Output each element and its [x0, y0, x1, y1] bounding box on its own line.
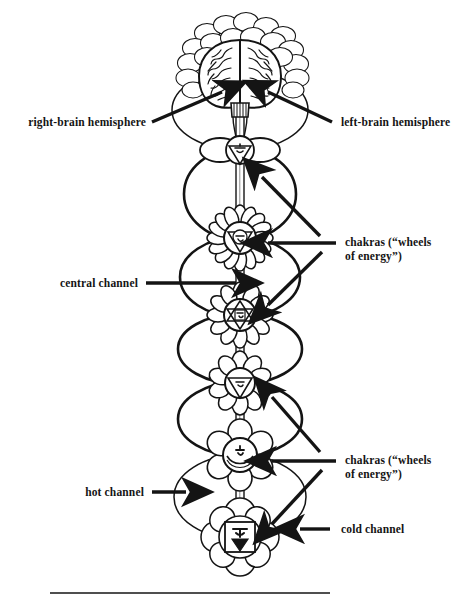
diagram-canvas: right-brain hemisphere left-brain hemisp… — [0, 0, 472, 608]
subtle-body-diagram — [0, 0, 472, 608]
label-left-brain-hemisphere: left-brain hemisphere — [341, 115, 471, 129]
leader-chakras-lower-a — [272, 397, 320, 452]
third-eye-chakra — [200, 136, 280, 164]
label-hot-channel: hot channel — [52, 485, 144, 499]
root-chakra — [201, 498, 279, 576]
label-right-brain-hemisphere: right-brain hemisphere — [18, 115, 146, 129]
solar-plexus-chakra — [207, 351, 273, 415]
sacral-chakra — [203, 419, 277, 491]
label-chakras-lower: chakras (“wheels of energy”) — [345, 453, 470, 481]
leader-chakras-lower-c — [272, 470, 322, 524]
label-chakras-upper: chakras (“wheels of energy”) — [345, 235, 470, 263]
label-cold-channel: cold channel — [341, 522, 451, 536]
throat-chakra — [207, 205, 273, 271]
heart-chakra — [207, 282, 273, 348]
label-central-channel: central channel — [28, 276, 138, 290]
crown-chakra — [176, 13, 309, 139]
